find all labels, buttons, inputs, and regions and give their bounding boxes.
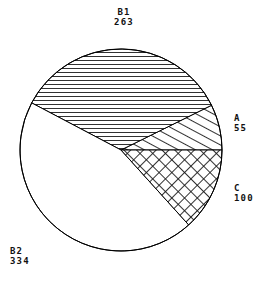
pie-label-c: C 100: [234, 183, 265, 204]
pie-label-b1-name: B1: [94, 7, 154, 17]
pie-label-a-name: A: [234, 113, 264, 123]
pie-chart-figure: B1 263 A 55 C 100 B2 334: [0, 0, 265, 286]
pie-label-b2: B2 334: [10, 246, 60, 267]
pie-label-b2-name: B2: [10, 246, 60, 256]
pie-label-c-value: 100: [234, 193, 265, 203]
pie-chart-svg: [0, 0, 265, 286]
pie-label-b1-value: 263: [94, 17, 154, 27]
pie-label-a-value: 55: [234, 123, 264, 133]
pie-label-b2-value: 334: [10, 256, 60, 266]
pie-label-b1: B1 263: [94, 7, 154, 28]
pie-slice-group: [20, 49, 222, 251]
pie-label-c-name: C: [234, 183, 265, 193]
pie-label-a: A 55: [234, 113, 264, 134]
